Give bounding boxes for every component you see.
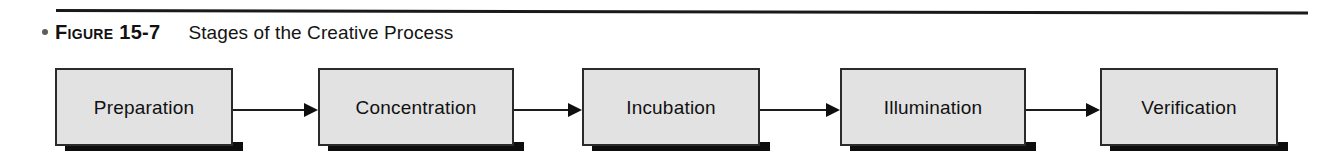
arrow-preparation-to-concentration (233, 103, 318, 117)
arrow-incubation-to-illumination (760, 103, 840, 117)
figure-top-rule (56, 9, 1308, 15)
arrowhead-icon (304, 103, 318, 117)
arrow-line (233, 109, 305, 111)
process-node-incubation: Incubation (582, 68, 760, 146)
node-box: Illumination (840, 68, 1026, 146)
node-label: Preparation (94, 98, 194, 117)
node-box: Incubation (582, 68, 760, 146)
process-node-illumination: Illumination (840, 68, 1026, 146)
arrowhead-icon (1086, 103, 1100, 117)
process-node-preparation: Preparation (55, 68, 233, 146)
process-node-concentration: Concentration (318, 68, 514, 146)
figure-container: Figure 15-7 Stages of the Creative Proce… (0, 0, 1318, 167)
node-label: Illumination (884, 98, 983, 117)
arrowhead-icon (568, 103, 582, 117)
process-node-verification: Verification (1100, 68, 1278, 146)
node-label: Incubation (626, 98, 716, 117)
arrow-line (1026, 109, 1087, 111)
node-label: Verification (1141, 98, 1236, 117)
arrow-line (514, 109, 569, 111)
node-box: Preparation (55, 68, 233, 146)
process-flow-diagram: PreparationConcentrationIncubationIllumi… (0, 68, 1318, 163)
arrowhead-icon (826, 103, 840, 117)
bullet-icon (42, 29, 48, 35)
node-label: Concentration (356, 98, 477, 117)
arrow-concentration-to-incubation (514, 103, 582, 117)
figure-caption: Figure 15-7 Stages of the Creative Proce… (42, 21, 453, 47)
node-box: Concentration (318, 68, 514, 146)
figure-title: Stages of the Creative Process (188, 22, 453, 44)
node-box: Verification (1100, 68, 1278, 146)
arrow-illumination-to-verification (1026, 103, 1100, 117)
arrow-line (760, 109, 827, 111)
figure-number-label: Figure 15-7 (55, 21, 160, 44)
